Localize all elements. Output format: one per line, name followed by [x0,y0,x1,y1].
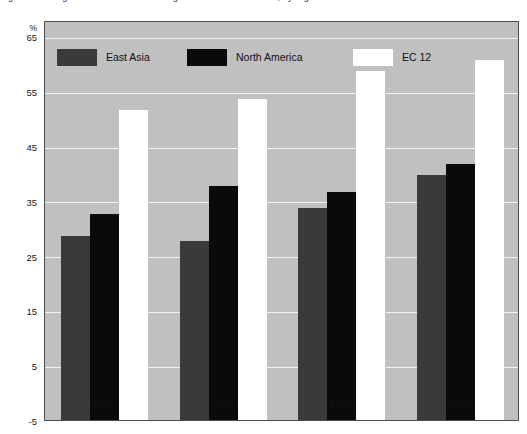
legend-label: North America [236,51,303,63]
x-axis-tick-label-1985: 1985 [210,399,233,411]
bar-ec-12-1985 [238,99,267,421]
y-axis-tick-label: 5 [32,361,37,372]
legend-label: East Asia [106,51,150,63]
bar-north-america-1995 [446,164,475,421]
y-axis-tick-label: 65 [26,32,37,43]
gridline [45,38,518,39]
x-axis-tick-label-1990: 1990 [329,399,352,411]
chart-title: Figure 1. Changes in the share of intra-… [0,0,527,6]
y-axis-tick-label: 55 [26,87,37,98]
bar-north-america-1980 [90,214,119,421]
x-axis-tick-label-1980: 1980 [92,399,115,411]
x-axis-tick-label-1995: 1995 [448,399,471,411]
legend-swatch-icon [57,49,97,66]
bar-east-asia-1995 [417,175,446,421]
y-axis-tick-label: 35 [26,196,37,207]
bar-ec-12-1980 [119,110,148,421]
legend-item-north-america[interactable]: North America [187,48,303,66]
legend-swatch-icon [187,49,227,66]
bar-north-america-1985 [209,186,238,421]
bar-east-asia-1985 [180,241,209,421]
y-axis-tick-label: 15 [26,306,37,317]
bar-east-asia-1980 [61,236,90,421]
y-axis-tick-label: 25 [26,251,37,262]
y-axis-tick-label: -5 [29,416,37,427]
bar-north-america-1990 [327,192,356,421]
gridline [45,93,518,94]
bar-east-asia-1990 [298,208,327,421]
gridline [45,148,518,149]
plot-area: East AsiaNorth AmericaEC 12 [44,21,519,421]
y-axis: % 6555453525155-5 [0,0,44,434]
bar-ec-12-1995 [475,60,504,421]
legend-item-east-asia[interactable]: East Asia [57,48,150,66]
legend-swatch-icon [353,49,393,66]
legend-item-ec-12[interactable]: EC 12 [353,48,431,66]
y-axis-tick-label: 45 [26,142,37,153]
chart-legend: East AsiaNorth AmericaEC 12 [45,22,518,62]
bar-ec-12-1990 [356,71,385,421]
chart-figure: Figure 1. Changes in the share of intra-… [0,0,527,434]
legend-label: EC 12 [402,51,431,63]
